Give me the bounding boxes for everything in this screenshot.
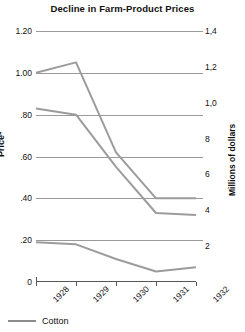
chart-title: Decline in Farm-Product Prices [0, 3, 245, 14]
left-axis-tick-label: .60 [20, 152, 32, 162]
left-axis-tick-label: 0 [27, 277, 32, 287]
right-axis-tick-label: 6 [205, 169, 210, 179]
legend-swatch-cotton [8, 320, 36, 322]
left-axis-tick-label: 1.00 [15, 68, 32, 78]
series-line [36, 62, 196, 198]
series-line [36, 242, 196, 271]
x-axis-tick-label: 1929 [91, 284, 111, 304]
right-axis-tick-label: 1,0 [205, 98, 217, 108]
series-lines [36, 31, 196, 282]
legend-label-cotton: Cotton [42, 316, 69, 326]
x-axis-tick-label: 1932 [211, 284, 231, 304]
right-axis-tick-labels: 24681,01,21,4 [205, 31, 245, 282]
right-axis-tick [196, 115, 203, 116]
right-axis-tick-label: 4 [205, 205, 210, 215]
right-axis-tick [196, 198, 203, 199]
right-axis-tick [196, 73, 203, 74]
left-axis-tick-label: .80 [20, 110, 32, 120]
right-axis-tick-label: 1,4 [205, 26, 217, 36]
left-axis-title: Price* [0, 131, 6, 157]
right-axis-title: Millions of dollars [227, 124, 237, 196]
right-axis-tick [196, 31, 203, 32]
chart-legend: Cotton [8, 316, 69, 326]
chart-container: Decline in Farm-Product Prices 0.20.40.6… [0, 0, 245, 332]
left-axis-tick-label: .40 [20, 193, 32, 203]
left-axis-tick-label: .20 [20, 235, 32, 245]
x-axis-tick [196, 282, 197, 286]
x-axis-tick-labels: 19281929193019311932 [36, 284, 196, 318]
x-axis-tick-label: 1928 [51, 284, 71, 304]
right-axis-tick-label: 8 [205, 134, 210, 144]
x-axis-tick-label: 1931 [171, 284, 191, 304]
left-axis-tick-label: 1.20 [15, 26, 32, 36]
right-axis-tick [196, 240, 203, 241]
right-axis-tick [196, 157, 203, 158]
right-axis-tick-label: 2 [205, 241, 210, 251]
right-axis-tick-label: 1,2 [205, 62, 217, 72]
x-axis-tick-label: 1930 [131, 284, 151, 304]
plot-area [36, 31, 196, 282]
